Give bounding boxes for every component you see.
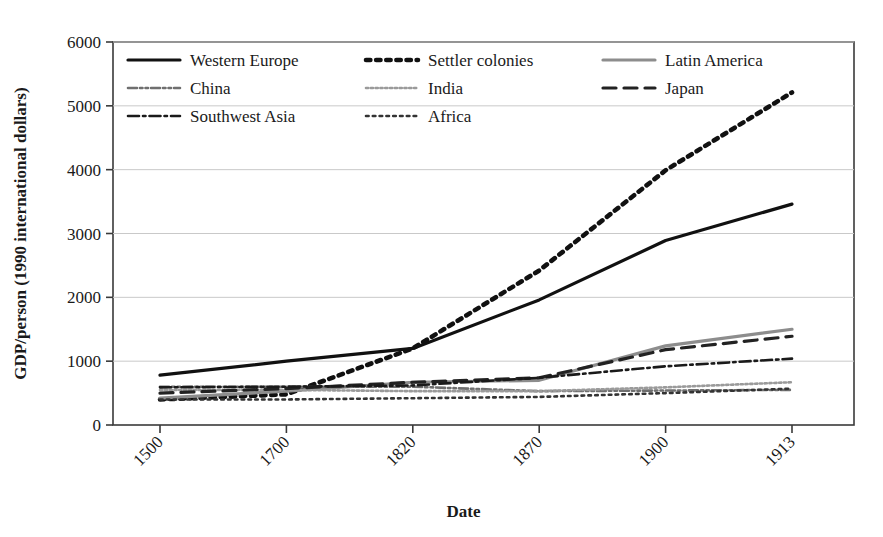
chart-canvas: 0100020003000400050006000150017001820187… (0, 0, 883, 537)
x-tick-label: 1900 (635, 432, 672, 469)
x-axis-title: Date (447, 502, 481, 521)
y-tick-label: 2000 (67, 288, 101, 307)
y-axis-title: GDP/person (1990 international dollars) (11, 87, 30, 379)
legend: Western EuropeSettler coloniesLatin Amer… (114, 43, 853, 139)
legend-label-southwest-asia: Southwest Asia (190, 107, 296, 126)
y-tick-label: 5000 (67, 97, 101, 116)
legend-label-settler-colonies: Settler colonies (428, 51, 533, 70)
y-tick-label: 0 (93, 416, 102, 435)
y-tick-label: 4000 (67, 161, 101, 180)
legend-label-western-europe: Western Europe (190, 51, 299, 70)
x-tick-label: 1870 (509, 432, 546, 469)
x-tick-label: 1700 (256, 432, 293, 469)
y-tick-label: 6000 (67, 33, 101, 52)
legend-label-africa: Africa (428, 107, 472, 126)
x-tick-label: 1820 (382, 432, 419, 469)
gdp-per-person-line-chart: 0100020003000400050006000150017001820187… (0, 0, 883, 537)
y-tick-label: 3000 (67, 225, 101, 244)
y-tick-label: 1000 (67, 352, 101, 371)
y-axis-ticks: 0100020003000400050006000 (67, 33, 113, 435)
legend-label-china: China (190, 79, 231, 98)
legend-label-japan: Japan (665, 79, 704, 98)
x-axis-ticks: 150017001820187019001913 (129, 425, 798, 470)
legend-label-latin-america: Latin America (665, 51, 763, 70)
legend-label-india: India (428, 79, 463, 98)
x-tick-label: 1913 (761, 432, 798, 469)
x-tick-label: 1500 (129, 432, 166, 469)
